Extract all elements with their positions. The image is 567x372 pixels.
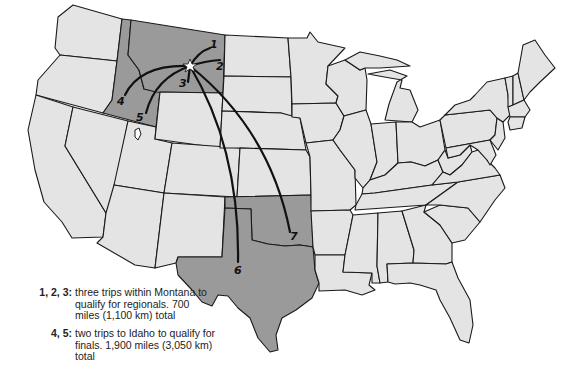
route-label-5: 5 <box>136 111 144 124</box>
state-wyoming <box>155 92 223 148</box>
route-label-7: 7 <box>290 230 298 243</box>
legend-item-1: 1, 2, 3:three trips within Montana to qu… <box>4 287 215 322</box>
legend-key: 4, 5: <box>4 328 72 340</box>
route-label-6: 6 <box>234 264 242 277</box>
state-colorado <box>164 143 240 197</box>
state-montana <box>128 20 225 93</box>
route-label-1: 1 <box>210 38 218 51</box>
legend-text: two trips to Idaho to qualify for finals… <box>72 328 225 363</box>
state-maine <box>518 40 555 100</box>
legend-item-2: 4, 5:two trips to Idaho to qualify for f… <box>4 328 225 363</box>
legend-text: three trips within Montana to qualify fo… <box>72 287 215 322</box>
route-label-3: 3 <box>179 77 187 90</box>
state-florida <box>387 262 473 343</box>
state-washington <box>55 5 122 61</box>
state-kansas <box>237 148 311 197</box>
state-connecticut <box>508 117 525 130</box>
route-label-2: 2 <box>216 60 224 73</box>
legend-key: 1, 2, 3: <box>4 287 72 299</box>
state-ohio <box>396 120 445 166</box>
route-label-4: 4 <box>116 95 125 108</box>
state-north-dakota <box>224 35 291 77</box>
